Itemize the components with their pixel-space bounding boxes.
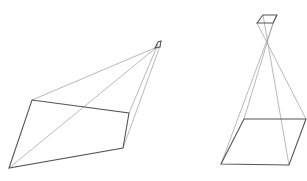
projection-ray <box>221 16 276 164</box>
left-frustum <box>9 41 161 168</box>
base-quad <box>221 119 306 165</box>
base-quad <box>9 100 129 168</box>
apex-quad <box>257 15 277 23</box>
projection-ray <box>123 46 160 148</box>
projection-ray <box>263 15 289 165</box>
diagram-canvas <box>0 0 307 181</box>
projection-ray <box>32 47 157 100</box>
projection-ray <box>257 23 306 119</box>
projection-ray <box>129 44 158 113</box>
projection-ray <box>9 47 157 168</box>
projection-ray <box>244 23 273 119</box>
right-frustum <box>221 15 306 165</box>
